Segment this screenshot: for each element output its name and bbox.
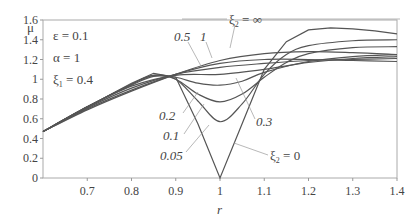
x-tick-label: 1: [217, 184, 223, 198]
y-tick-label: 0.2: [23, 151, 38, 165]
annotation-0-1: 0.1: [163, 128, 179, 143]
axis-ticks: [40, 20, 397, 181]
y-tick-label: 0.6: [23, 112, 38, 126]
x-tick-label: 1.4: [390, 184, 405, 198]
chart-svg: 0.70.80.911.11.21.31.400.20.40.60.811.21…: [0, 0, 413, 223]
y-tick-label: 1.2: [23, 53, 38, 67]
x-tick-label: 0.7: [80, 184, 95, 198]
annotation-xi2-inf: ξ2 = ∞: [229, 12, 262, 29]
param-alpha: α = 1: [53, 50, 80, 65]
x-tick-label: 1.2: [301, 184, 316, 198]
series-line: [43, 59, 397, 132]
y-tick-label: 0.4: [23, 132, 38, 146]
x-tick-label: 1.1: [257, 184, 272, 198]
plot-frame: [43, 20, 397, 178]
annotation-0-3: 0.3: [256, 114, 273, 129]
y-tick-label: 0: [32, 171, 38, 185]
y-tick-label: 1: [32, 72, 38, 86]
x-tick-label: 1.3: [345, 184, 360, 198]
y-axis-label: μ: [27, 20, 34, 35]
annotation-xi2-zero: ξ2 = 0: [270, 148, 300, 165]
param-epsilon: ε = 0.1: [53, 28, 89, 43]
annotation-0-2: 0.2: [159, 108, 176, 123]
x-tick-label: 0.9: [168, 184, 183, 198]
param-xi1: ξ1 = 0.4: [53, 72, 93, 89]
chart: 0.70.80.911.11.21.31.400.20.40.60.811.21…: [0, 0, 413, 223]
x-tick-label: 0.8: [124, 184, 139, 198]
x-axis-label: r: [217, 202, 223, 217]
annotation-0-5: 0.5: [174, 29, 191, 44]
annotation-0-05: 0.05: [160, 148, 183, 163]
annotation-1: 1: [200, 29, 207, 44]
series-line: [43, 55, 397, 132]
y-tick-label: 0.8: [23, 92, 38, 106]
series-line: [43, 59, 397, 131]
series-lines: [43, 28, 397, 178]
